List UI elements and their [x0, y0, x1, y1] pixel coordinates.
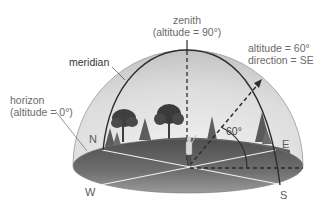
direction-north: N	[89, 133, 97, 145]
direction-east: E	[282, 138, 289, 150]
zenith-title: zenith	[147, 14, 227, 26]
direction-west: W	[85, 186, 95, 198]
horizon-label: horizon (altitude = 0°)	[10, 94, 73, 118]
star-direction: direction = SE	[248, 54, 314, 66]
meridian-label: meridian	[69, 56, 109, 68]
angle-label: 60°	[226, 125, 242, 137]
zenith-subtitle: (altitude = 90°)	[147, 26, 227, 38]
direction-south: S	[280, 189, 287, 201]
horizon-title: horizon	[10, 94, 73, 106]
star-label: altitude = 60° direction = SE	[248, 42, 314, 66]
horizon-subtitle: (altitude = 0°)	[10, 106, 73, 118]
star-altitude: altitude = 60°	[248, 42, 314, 54]
zenith-label: zenith (altitude = 90°)	[147, 14, 227, 38]
